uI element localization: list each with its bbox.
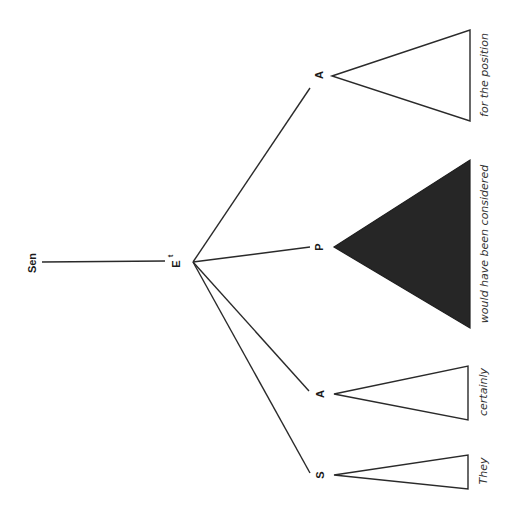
node-a-top: A for the position: [313, 30, 491, 121]
leaf-for-the-position: for the position: [478, 33, 491, 117]
node-e-label: E: [170, 260, 182, 267]
node-e: E t: [166, 254, 182, 267]
node-e-superscript: t: [166, 254, 175, 257]
triangle-p-filled: [334, 160, 470, 328]
node-p: P would have been considered: [313, 160, 491, 328]
node-s-label: S: [314, 471, 326, 478]
triangle-a-lower: [334, 366, 468, 420]
node-a-top-label: A: [313, 71, 325, 79]
node-a-lower-label: A: [314, 390, 326, 398]
syntax-tree-diagram: Sen E t A for the position P would have …: [0, 0, 525, 512]
edge-sen-to-e: [42, 261, 165, 262]
node-a-lower: A certainly: [314, 366, 490, 420]
leaf-would-have-been-considered: would have been considered: [478, 164, 491, 323]
edge-e-to-a-top: [193, 88, 310, 262]
node-sen-label: Sen: [26, 253, 38, 273]
edge-e-to-s: [193, 262, 310, 473]
leaf-they: They: [477, 457, 490, 484]
node-s: S They: [314, 455, 490, 489]
leaf-certainly: certainly: [477, 368, 490, 416]
edge-e-to-a-lower: [193, 262, 309, 391]
triangle-s: [334, 455, 468, 489]
edge-e-to-p: [193, 247, 310, 262]
triangle-a-top: [332, 30, 470, 121]
node-p-label: P: [313, 243, 325, 250]
